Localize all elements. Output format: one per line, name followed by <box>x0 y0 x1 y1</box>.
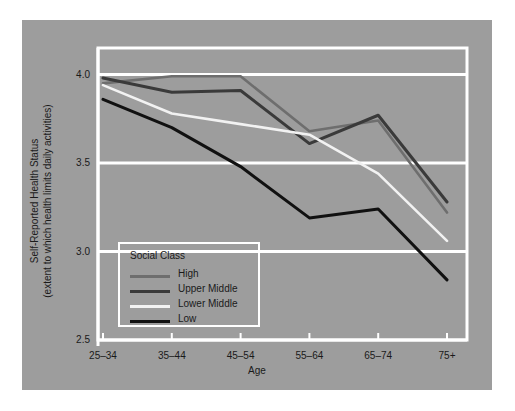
legend-swatch-upper-middle <box>130 290 170 293</box>
legend-label: Upper Middle <box>178 283 237 294</box>
y-tick-label: 3.0 <box>48 246 90 257</box>
top-text-artifact <box>130 0 490 10</box>
legend-swatch-high <box>130 275 170 278</box>
plot-area <box>22 20 492 390</box>
legend-label: Lower Middle <box>178 298 237 309</box>
x-tick-label: 65–74 <box>343 350 413 361</box>
y-tick-label: 4.0 <box>48 69 90 80</box>
x-tick-label: 25–34 <box>68 350 138 361</box>
figure-canvas: Self-Reported Health Status (extent to w… <box>0 0 515 411</box>
x-tick-label: 75+ <box>412 350 482 361</box>
y-tick-label: 3.5 <box>48 157 90 168</box>
y-tick-label: 2.5 <box>48 334 90 345</box>
legend-label: Low <box>178 313 196 324</box>
legend: Social Class HighUpper MiddleLower Middl… <box>118 242 260 327</box>
series-line-upper-middle <box>103 78 447 202</box>
x-tick-label: 45–54 <box>206 350 276 361</box>
chart-panel: Self-Reported Health Status (extent to w… <box>22 20 492 390</box>
legend-swatch-lower-middle <box>130 305 170 308</box>
legend-label: High <box>178 268 199 279</box>
x-tick-label: 35–44 <box>137 350 207 361</box>
legend-swatch-low <box>130 320 170 323</box>
legend-title: Social Class <box>130 250 185 261</box>
x-tick-label: 55–64 <box>274 350 344 361</box>
